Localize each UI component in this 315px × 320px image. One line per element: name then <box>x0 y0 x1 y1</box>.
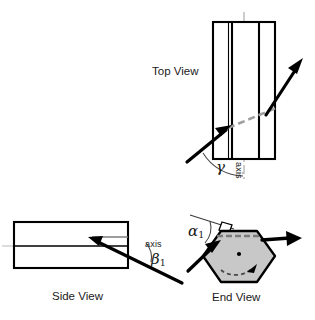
alpha-subscript: 1 <box>198 229 204 240</box>
alpha1-angle-label: α1 <box>188 224 204 240</box>
end-view-alpha-arc <box>205 221 211 243</box>
top-view-axis-label: axis <box>234 162 243 179</box>
end-view-label: End View <box>212 292 260 304</box>
side-view-body-rect <box>14 222 128 268</box>
side-view-axis-label: axis <box>145 240 162 249</box>
end-view-outgoing-ray <box>262 231 302 246</box>
end-view-center-dot <box>237 252 241 256</box>
beta1-angle-label: β1 <box>151 252 166 268</box>
technical-diagram <box>0 0 315 320</box>
beta-symbol: β <box>151 250 160 268</box>
beta-subscript: 1 <box>160 257 166 268</box>
gamma-angle-label: γ <box>216 160 225 175</box>
top-view-panel <box>187 12 303 180</box>
alpha-symbol: α <box>188 222 198 240</box>
top-view-body-rect <box>213 22 275 159</box>
side-view-label: Side View <box>52 291 103 303</box>
top-view-label: Top View <box>152 66 198 78</box>
end-view-panel <box>188 215 302 282</box>
